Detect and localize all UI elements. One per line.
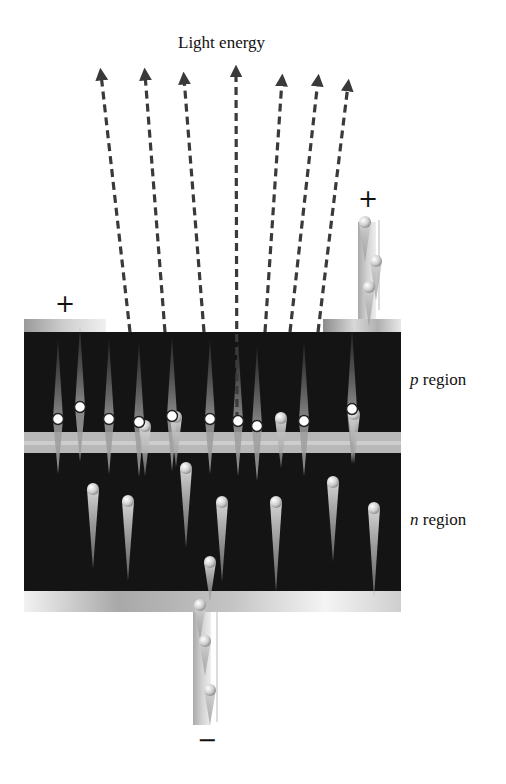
light-ray-arrow-icon: [145, 74, 165, 332]
n-region-label: n region: [410, 510, 466, 530]
hole-icon: [233, 416, 244, 427]
p-region-word: region: [419, 370, 467, 389]
light-ray-arrow-icon: [265, 80, 282, 332]
hole-icon: [299, 416, 310, 427]
hole-icon: [205, 414, 216, 425]
hole-icon: [53, 414, 64, 425]
hole-icon: [134, 417, 145, 428]
top-right-contact: [323, 319, 401, 333]
top-left-plus-sign: +: [55, 292, 75, 316]
bottom-minus-sign: −: [197, 728, 217, 752]
p-letter: p: [410, 370, 419, 389]
light-energy-label: Light energy: [178, 33, 265, 53]
bottom-contact: [24, 591, 401, 612]
hole-icon: [167, 411, 178, 422]
light-ray-arrow-icon: [101, 74, 130, 332]
hole-icon: [104, 414, 115, 425]
hole-icon: [347, 404, 358, 415]
top-right-plus-sign: +: [358, 187, 378, 211]
n-letter: n: [410, 510, 419, 529]
p-region-label: p region: [410, 370, 466, 390]
led-diagram: [0, 0, 506, 784]
hole-icon: [252, 421, 263, 432]
light-ray-arrow-icon: [184, 78, 204, 332]
n-region-word: region: [419, 510, 467, 529]
light-ray-arrow-icon: [290, 80, 318, 332]
top-left-contact: [24, 319, 106, 333]
light-ray-arrow-icon: [318, 85, 348, 332]
hole-icon: [75, 402, 86, 413]
light-ray-arrow-icon: [236, 71, 237, 420]
